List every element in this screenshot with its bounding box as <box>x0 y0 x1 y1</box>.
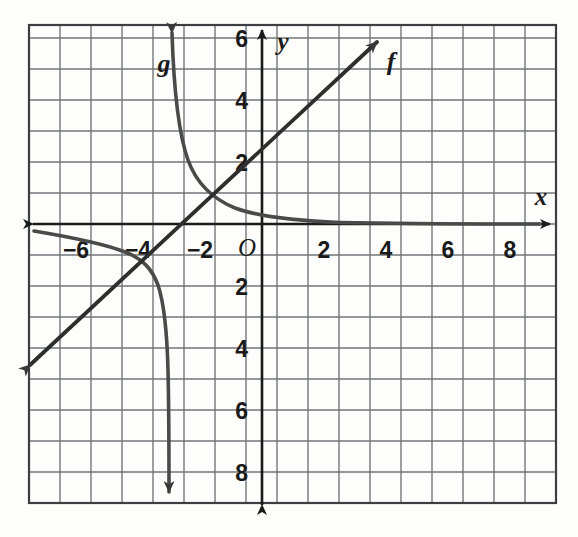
paper-background <box>0 0 578 537</box>
y-tick-label-neg6: 6 <box>235 398 248 424</box>
x-tick-label-neg2: −2 <box>187 237 213 263</box>
x-axis-label: x <box>534 183 548 210</box>
coordinate-grid-figure: x y O −6 −4 −2 2 4 6 8 6 4 2 2 4 6 8 g f <box>0 0 578 537</box>
graph-svg: x y O −6 −4 −2 2 4 6 8 6 4 2 2 4 6 8 g f <box>0 0 578 537</box>
x-tick-label-pos8: 8 <box>504 237 517 263</box>
x-tick-label-pos6: 6 <box>442 237 455 263</box>
y-tick-label-neg8: 8 <box>235 460 248 486</box>
y-tick-label-pos4: 4 <box>235 88 248 114</box>
y-tick-label-pos6: 6 <box>235 26 248 52</box>
y-tick-label-neg4: 4 <box>235 336 248 362</box>
curve-label-g: g <box>157 49 171 78</box>
y-tick-label-neg2: 2 <box>235 274 248 300</box>
x-tick-label-pos2: 2 <box>318 237 331 263</box>
y-axis-label: y <box>274 28 289 55</box>
origin-label: O <box>238 234 256 261</box>
x-tick-label-pos4: 4 <box>380 237 393 263</box>
